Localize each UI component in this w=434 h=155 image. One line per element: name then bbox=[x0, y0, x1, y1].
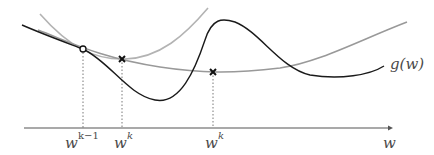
diagram-canvas: g(w) w w k−1 w k w k bbox=[0, 0, 434, 155]
function-label: g(w) bbox=[390, 55, 424, 73]
dotted-guides bbox=[83, 49, 213, 128]
svg-text:w: w bbox=[114, 134, 127, 152]
tick-label-wk-b: w k bbox=[205, 130, 224, 152]
circle-marker-icon bbox=[80, 46, 86, 52]
svg-text:w: w bbox=[65, 134, 78, 152]
svg-text:k: k bbox=[127, 130, 133, 141]
svg-text:w: w bbox=[205, 134, 218, 152]
tick-label-wk-1: w k−1 bbox=[65, 130, 99, 152]
quadratic-wide-curve bbox=[38, 22, 407, 72]
svg-text:k: k bbox=[218, 130, 224, 141]
svg-text:k−1: k−1 bbox=[78, 130, 99, 141]
quadratic-narrow-curve bbox=[40, 8, 208, 59]
axis-label: w bbox=[383, 134, 396, 152]
g-curve bbox=[22, 20, 384, 101]
tick-label-wk-a: w k bbox=[114, 130, 133, 152]
